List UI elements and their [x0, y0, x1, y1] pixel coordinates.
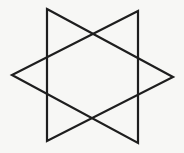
star-diagram — [0, 0, 184, 153]
background — [0, 0, 184, 153]
